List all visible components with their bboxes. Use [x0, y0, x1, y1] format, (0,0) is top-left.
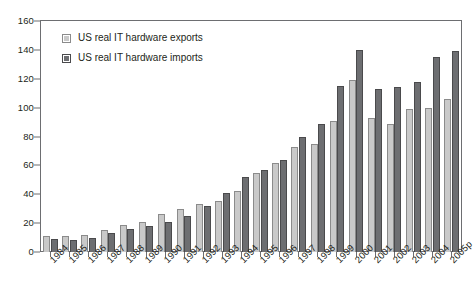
- bar-exports: [368, 118, 375, 252]
- legend-item-imports: US real IT hardware imports: [62, 50, 282, 66]
- y-axis-labels: 020406080100120140160: [0, 20, 34, 252]
- y-axis-tick-label: 120: [18, 74, 34, 84]
- x-axis-labels: 1984198519861987198819891990199119921993…: [41, 258, 471, 300]
- bar-group: [444, 21, 459, 252]
- y-axis-tick-label: 160: [18, 16, 34, 26]
- y-axis-tick-label: 80: [23, 132, 34, 142]
- bar-exports: [311, 144, 318, 252]
- bar-group: [368, 21, 383, 252]
- y-axis-tick-label: 40: [23, 190, 34, 200]
- bar-exports: [387, 124, 394, 252]
- bar-group: [387, 21, 402, 252]
- bar-imports: [394, 87, 401, 252]
- bar-group: [291, 21, 306, 252]
- bar-exports: [349, 80, 356, 252]
- legend-label-exports: US real IT hardware exports: [78, 33, 203, 43]
- bar-group: [406, 21, 421, 252]
- bar-imports: [375, 89, 382, 252]
- bar-imports: [299, 137, 306, 253]
- y-axis-tick-label: 100: [18, 103, 34, 113]
- legend-swatch-exports-icon: [62, 34, 71, 43]
- bar-group: [349, 21, 364, 252]
- legend-label-imports: US real IT hardware imports: [78, 53, 203, 63]
- bar-imports: [356, 50, 363, 252]
- bar-group: [311, 21, 326, 252]
- y-axis-tick-label: 20: [23, 218, 34, 228]
- bar-group: [425, 21, 440, 252]
- bar-imports: [414, 82, 421, 252]
- bar-imports: [337, 86, 344, 252]
- bar-imports: [318, 124, 325, 252]
- bar-group: [330, 21, 345, 252]
- bar-exports: [425, 108, 432, 252]
- chart-legend: US real IT hardware exports US real IT h…: [62, 30, 282, 70]
- bar-imports: [280, 160, 287, 252]
- y-axis-tick-label: 140: [18, 45, 34, 55]
- bar-exports: [43, 236, 50, 252]
- y-axis-tick-label: 60: [23, 161, 34, 171]
- legend-swatch-imports-icon: [62, 54, 71, 63]
- bar-group: [43, 21, 58, 252]
- bar-exports: [330, 121, 337, 252]
- bar-exports: [272, 163, 279, 253]
- bar-imports: [223, 193, 230, 252]
- bar-exports: [444, 99, 451, 252]
- bar-exports: [253, 173, 260, 252]
- bar-exports: [291, 147, 298, 252]
- bar-imports: [242, 177, 249, 252]
- bar-imports: [433, 57, 440, 252]
- bar-imports: [261, 170, 268, 252]
- bar-imports: [204, 206, 211, 252]
- legend-item-exports: US real IT hardware exports: [62, 30, 282, 46]
- bar-exports: [406, 109, 413, 252]
- bar-imports: [452, 51, 459, 252]
